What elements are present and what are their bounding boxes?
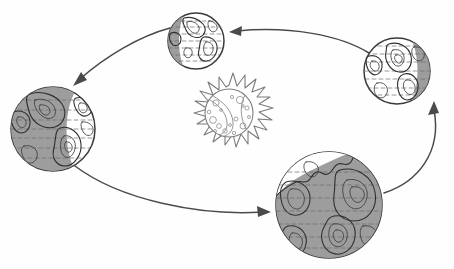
sun-core [205, 89, 253, 137]
earth-bottom [276, 152, 382, 258]
arrow-top-to-left [73, 28, 170, 86]
earth-top [168, 13, 224, 69]
orbit-diagram [0, 0, 454, 269]
diagram-canvas [0, 0, 454, 269]
arrow-bottom-to-right [384, 101, 439, 193]
arrow-right-to-top [229, 26, 369, 53]
sun [194, 73, 273, 147]
arrow-left-to-bottom [75, 166, 271, 217]
earth-right [364, 38, 430, 104]
earth-left [11, 87, 95, 171]
